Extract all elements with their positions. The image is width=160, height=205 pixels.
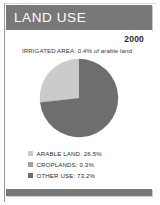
legend-label-other-use: OTHER USE: 73.2% — [37, 172, 96, 179]
legend-swatch-other-use — [28, 173, 33, 178]
legend-swatch-arable-land — [28, 151, 33, 156]
card-body: 2000 IRRIGATED AREA: 0.4% of arable land… — [6, 30, 152, 188]
land-use-chart-card: LAND USE 2000 IRRIGATED AREA: 0.4% of ar… — [0, 0, 160, 205]
card-header: LAND USE — [6, 5, 152, 30]
year-label: 2000 — [124, 34, 144, 44]
legend-item-croplands: CROPLANDS: 0.3% — [28, 159, 148, 170]
pie-slice-arable-land — [40, 59, 79, 102]
pie-slice-group — [40, 59, 118, 137]
legend-swatch-croplands — [28, 162, 33, 167]
card-footer — [6, 189, 152, 196]
irrigated-area-note: IRRIGATED AREA: 0.4% of arable land — [6, 47, 148, 54]
legend-item-other-use: OTHER USE: 73.2% — [28, 170, 148, 181]
legend-label-arable-land: ARABLE LAND: 26.5% — [37, 150, 102, 157]
pie-chart — [39, 58, 119, 138]
pie-chart-container — [6, 58, 152, 144]
page-title: LAND USE — [14, 9, 86, 26]
legend-item-arable-land: ARABLE LAND: 26.5% — [28, 148, 148, 159]
legend-label-croplands: CROPLANDS: 0.3% — [37, 161, 94, 168]
chart-legend: ARABLE LAND: 26.5% CROPLANDS: 0.3% OTHER… — [28, 148, 148, 181]
